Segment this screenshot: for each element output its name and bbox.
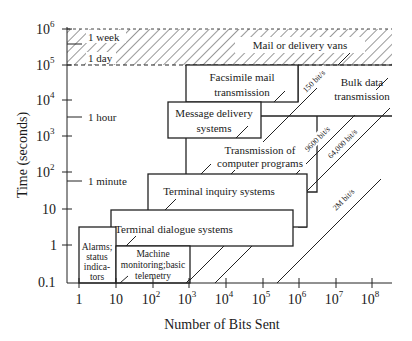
facsimile-label-2: transmission (214, 86, 270, 98)
svg-text:10: 10 (42, 202, 56, 217)
inquiry-label: Terminal inquiry systems (163, 185, 275, 197)
svg-text:106: 106 (288, 289, 307, 307)
svg-text:102: 102 (142, 289, 161, 307)
programs-label-2: computer programs (217, 157, 303, 169)
svg-text:107: 107 (325, 289, 344, 307)
svg-text:105: 105 (36, 55, 55, 73)
svg-text:103: 103 (178, 289, 197, 307)
facsimile-label-1: Facsimile mail (209, 71, 274, 83)
machine-label-1: Machine (136, 249, 169, 259)
svg-text:10: 10 (109, 292, 123, 307)
alarms-label-4: tors (90, 272, 105, 282)
week-label: 1 week (88, 31, 120, 43)
programs-label-1: Transmission of (225, 144, 296, 156)
minute-label: 1 minute (88, 175, 127, 187)
hour-label: 1 hour (88, 111, 117, 123)
svg-text:104: 104 (36, 90, 55, 108)
alarms-label-3: indica- (84, 262, 110, 272)
dialogue-label: Terminal dialogue systems (115, 223, 233, 235)
bits-vs-time-chart: Mail or delivery vans 1 week 1 day Facsi… (0, 0, 412, 341)
svg-text:1: 1 (76, 292, 83, 307)
alarms-label-1: Alarms; (82, 242, 113, 252)
bulk-label-1: Bulk data (341, 76, 384, 88)
svg-text:108: 108 (361, 289, 380, 307)
svg-text:0.1: 0.1 (38, 275, 56, 290)
svg-text:1: 1 (50, 238, 57, 253)
x-tick-labels: 1 10 102 103 104 105 106 107 108 (76, 289, 380, 307)
svg-text:104: 104 (215, 289, 234, 307)
mail-label: Mail or delivery vans (253, 39, 347, 51)
day-label: 1 day (88, 52, 113, 64)
bulk-label-2: transmission (334, 90, 390, 102)
rate-label-2m: 2M bit/s (331, 187, 356, 212)
svg-text:102: 102 (36, 162, 55, 180)
svg-text:103: 103 (36, 126, 55, 144)
svg-text:106: 106 (36, 19, 55, 37)
machine-label-2: monitoring;basic (121, 260, 185, 270)
message-label-2: systems (197, 122, 232, 134)
message-label-1: Message delivery (175, 107, 253, 119)
y-axis-title: Time (seconds) (15, 112, 31, 199)
alarms-label-2: status (86, 252, 108, 262)
svg-text:105: 105 (252, 289, 271, 307)
y-tick-labels: 106 105 104 103 102 10 1 0.1 (36, 19, 57, 290)
x-axis-title: Number of Bits Sent (164, 317, 280, 332)
